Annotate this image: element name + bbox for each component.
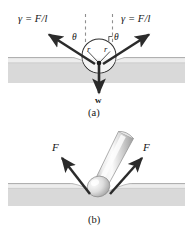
caption-b: (b) <box>88 215 100 226</box>
radius-label-right: r <box>104 45 107 54</box>
surface-tension-figure: γ = F/l γ = F/l θ θ r r w (a) F F (b) <box>0 0 193 233</box>
theta-label-left: θ <box>72 33 77 43</box>
radius-label-left: r <box>87 45 90 54</box>
weight-label: w <box>95 96 102 105</box>
panel-b-group <box>8 131 185 206</box>
caption-a: (a) <box>88 108 100 119</box>
gamma-label-right: γ = F/l <box>121 14 150 25</box>
angle-corner-ticks <box>109 37 113 42</box>
gamma-label-left: γ = F/l <box>18 14 47 25</box>
force-label-right: F <box>143 142 150 153</box>
theta-label-right: θ <box>114 33 119 43</box>
panel-a-group <box>8 14 185 93</box>
force-label-left: F <box>52 142 59 153</box>
